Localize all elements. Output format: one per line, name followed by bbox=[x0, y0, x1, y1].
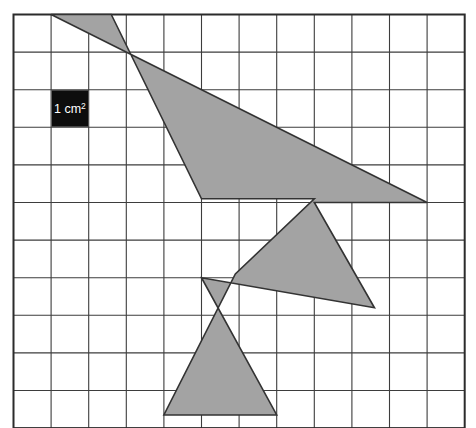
unit-area-key-main-text: 1 cm bbox=[54, 102, 81, 116]
grid-figure-svg: 1 cm2 bbox=[0, 0, 476, 428]
unit-area-key-superscript: 2 bbox=[81, 101, 86, 111]
figure-root: 1 cm2 bbox=[0, 0, 476, 428]
